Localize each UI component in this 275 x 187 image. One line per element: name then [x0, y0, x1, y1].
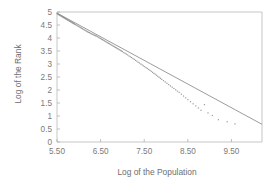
data-point	[147, 68, 148, 69]
data-point	[128, 55, 129, 56]
data-point	[124, 53, 125, 54]
data-point	[218, 119, 219, 120]
data-point	[126, 54, 127, 55]
data-point	[173, 88, 174, 89]
data-point	[153, 73, 154, 74]
y-tick-label: 3.5	[41, 47, 53, 56]
data-point	[161, 79, 162, 80]
data-point	[122, 51, 123, 52]
y-tick-label: 2	[47, 86, 52, 95]
data-point	[165, 81, 166, 82]
data-point	[159, 77, 160, 78]
data-point	[160, 78, 161, 79]
data-point	[187, 99, 188, 100]
data-point	[166, 83, 167, 84]
data-point	[227, 121, 228, 122]
x-tick-label: 9.50	[223, 147, 239, 156]
data-point	[212, 115, 213, 116]
data-point	[123, 52, 124, 53]
data-point	[151, 71, 152, 72]
data-point	[172, 87, 173, 88]
x-tick-label: 5.50	[49, 147, 65, 156]
data-point	[132, 58, 133, 59]
data-point	[143, 65, 144, 66]
y-tick-label: 0.5	[41, 125, 53, 134]
data-point	[130, 56, 131, 57]
data-point	[145, 67, 146, 68]
data-point	[234, 123, 235, 124]
y-tick-label: 4	[47, 34, 52, 43]
y-axis-title: Log of the Rank	[13, 44, 23, 104]
data-point	[163, 80, 164, 81]
data-point	[139, 62, 140, 63]
data-point	[177, 90, 178, 91]
data-point	[200, 110, 201, 111]
data-point	[155, 74, 156, 75]
y-tick-label: 0	[47, 138, 52, 147]
x-tick-label: 7.50	[136, 147, 152, 156]
data-point	[131, 57, 132, 58]
data-point	[138, 62, 139, 63]
y-tick-label: 2.5	[41, 73, 53, 82]
data-point	[140, 63, 141, 64]
rank-size-scatter-chart: 00.511.522.533.544.55 5.506.507.508.509.…	[0, 0, 275, 187]
y-tick-label: 1	[47, 112, 52, 121]
data-point	[157, 76, 158, 77]
data-point	[144, 66, 145, 67]
y-tick-label: 5	[47, 8, 52, 17]
data-point	[136, 61, 137, 62]
data-point	[134, 59, 135, 60]
y-tick-label: 3	[47, 60, 52, 69]
x-tick-label: 8.50	[180, 147, 196, 156]
data-point	[179, 92, 180, 93]
y-axis-tick-labels: 00.511.522.533.544.55	[41, 8, 53, 147]
data-point	[181, 94, 182, 95]
chart-canvas: 00.511.522.533.544.55 5.506.507.508.509.…	[0, 0, 275, 187]
data-point	[175, 89, 176, 90]
data-point	[156, 75, 157, 76]
data-point	[185, 97, 186, 98]
data-point	[183, 95, 184, 96]
x-axis-title: Log of the Population	[117, 167, 197, 177]
y-tick-label: 4.5	[41, 21, 53, 30]
data-point	[152, 72, 153, 73]
data-point	[168, 84, 169, 85]
data-point	[170, 85, 171, 86]
data-point	[207, 112, 208, 113]
data-point	[127, 54, 128, 55]
data-point	[195, 105, 196, 106]
x-tick-label: 6.50	[93, 147, 109, 156]
data-point	[135, 60, 136, 61]
data-point	[142, 64, 143, 65]
data-point	[198, 107, 199, 108]
data-point	[204, 104, 205, 105]
data-point	[193, 103, 194, 104]
data-point	[149, 70, 150, 71]
data-point	[190, 101, 191, 102]
data-point	[148, 69, 149, 70]
y-tick-label: 1.5	[41, 99, 53, 108]
